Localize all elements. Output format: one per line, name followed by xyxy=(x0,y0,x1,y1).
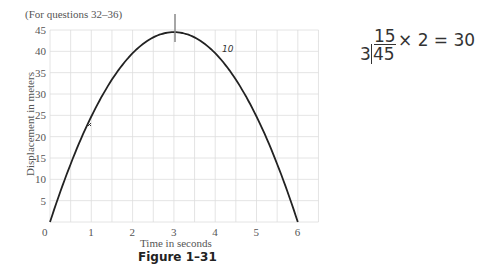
svg-text:45: 45 xyxy=(35,24,47,36)
svg-text:2: 2 xyxy=(130,226,136,238)
handwritten-result: × 2 = 30 xyxy=(398,30,475,50)
y-axis-label: Displacement in meters xyxy=(24,64,36,184)
svg-text:15: 15 xyxy=(35,152,47,164)
svg-text:20: 20 xyxy=(35,131,47,143)
x-axis-label: Time in seconds xyxy=(140,237,212,249)
svg-text:4: 4 xyxy=(212,226,218,238)
svg-text:0: 0 xyxy=(42,226,48,238)
svg-text:1: 1 xyxy=(88,226,94,238)
svg-text:10: 10 xyxy=(35,173,47,185)
figure-caption: Figure 1–31 xyxy=(138,250,217,264)
handwritten-divisor: 3 xyxy=(360,44,371,64)
svg-text:5: 5 xyxy=(41,195,47,207)
svg-text:35: 35 xyxy=(35,67,47,79)
svg-text:5: 5 xyxy=(254,226,260,238)
svg-text:40: 40 xyxy=(35,45,47,57)
handwritten-dividend: 45 xyxy=(371,44,395,64)
handwritten-quotient: 15 xyxy=(374,28,396,45)
svg-text:6: 6 xyxy=(295,226,301,238)
handwritten-margin-note: 10 xyxy=(222,44,233,54)
svg-text:30: 30 xyxy=(35,88,47,100)
svg-text:25: 25 xyxy=(35,109,47,121)
